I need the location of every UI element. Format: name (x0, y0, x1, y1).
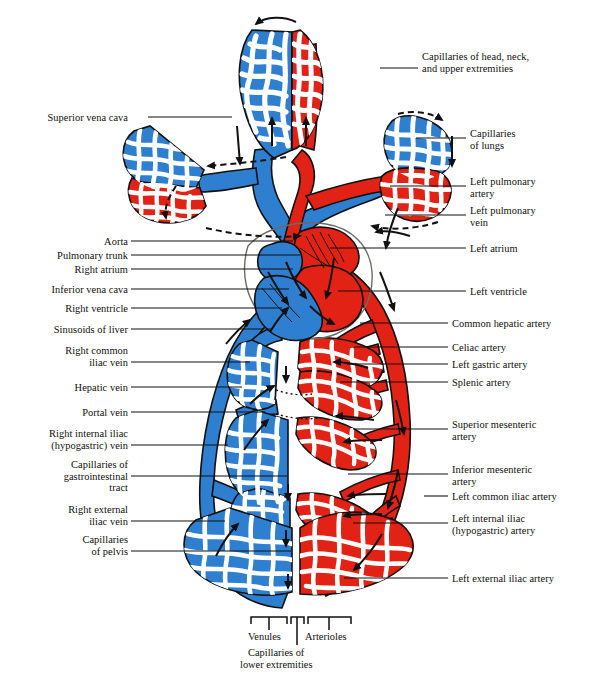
capillary-bed-left-lung (123, 126, 206, 224)
label-left-pulmonary-vein: Left pulmonaryvein (470, 205, 593, 228)
label-line: Hepatic vein (0, 382, 128, 394)
label-line: Celiac artery (452, 342, 593, 354)
label-left-gastric-artery: Left gastric artery (452, 359, 593, 371)
label-line: Portal vein (0, 407, 128, 419)
left-upper-venous-return (198, 168, 258, 192)
label-line: (hypogastric) vein (0, 440, 128, 452)
label-line: Capillaries of (0, 459, 128, 471)
label-line: Left common iliac artery (452, 491, 593, 503)
label-line: Left internal iliac (452, 513, 593, 525)
label-line: iliac vein (0, 357, 128, 369)
bracket-label-capillaries-of-lower-extremities: Capillaries oflower extremities (240, 647, 312, 671)
label-line: Aorta (0, 236, 128, 248)
label-line: Right ventricle (0, 303, 128, 315)
label-capillaries-of-lungs: Capillariesof lungs (470, 128, 593, 151)
label-sinusoids-of-liver: Sinusoids of liver (0, 324, 130, 336)
label-line: Inferior vena cava (0, 284, 128, 296)
label-line: Right external (0, 504, 128, 516)
label-line: artery (470, 188, 593, 200)
label-right-ventricle: Right ventricle (0, 303, 130, 315)
label-hepatic-vein: Hepatic vein (0, 382, 130, 394)
label-line: Right atrium (0, 264, 128, 276)
label-left-external-iliac-artery: Left external iliac artery (452, 573, 593, 585)
label-right-internal-iliac-hypogastric-vein: Right internal iliac(hypogastric) vein (0, 428, 130, 451)
label-aorta: Aorta (0, 236, 130, 248)
label-line: Capillaries of head, neck, (422, 51, 593, 63)
label-line: vein (470, 217, 593, 229)
bracket-arterioles (308, 617, 351, 630)
label-line: Superior mesenteric (452, 419, 593, 431)
label-line: Venules (248, 631, 281, 643)
label-line: Capillaries (470, 128, 593, 140)
label-line: Common hepatic artery (452, 318, 593, 330)
label-splenic-artery: Splenic artery (452, 377, 593, 389)
label-line: Left ventricle (470, 286, 593, 298)
label-right-common-iliac-vein: Right commoniliac vein (0, 345, 130, 368)
capillary-bed-gastrointestinal-arterial (298, 338, 386, 422)
label-capillaries-of-gastrointestinal-tract: Capillaries ofgastrointestinaltract (0, 459, 130, 494)
label-line: gastrointestinal (0, 471, 128, 483)
label-line: artery (452, 476, 593, 488)
label-capillaries-of-head-neck-and-upper-extremities: Capillaries of head, neck,and upper extr… (422, 51, 593, 74)
label-line: Sinusoids of liver (0, 324, 128, 336)
label-left-common-iliac-artery: Left common iliac artery (452, 491, 593, 503)
label-pulmonary-trunk: Pulmonary trunk (0, 250, 130, 262)
label-common-hepatic-artery: Common hepatic artery (452, 318, 593, 330)
label-line: and upper extremities (422, 63, 593, 75)
capillary-bed-right-lung (380, 116, 456, 222)
label-line: artery (452, 431, 593, 443)
circulatory-system-figure: Superior vena cavaAortaPulmonary trunkRi… (0, 0, 595, 694)
label-line: Capillaries of (240, 647, 312, 659)
label-line: Left external iliac artery (452, 573, 593, 585)
label-left-internal-iliac-hypogastric-artery: Left internal iliac(hypogastric) artery (452, 513, 593, 536)
bracket-label-venules: Venules (248, 631, 281, 643)
label-line: of pelvis (0, 546, 128, 558)
label-line: Pulmonary trunk (0, 250, 128, 262)
label-line: iliac vein (0, 516, 128, 528)
label-inferior-vena-cava: Inferior vena cava (0, 284, 130, 296)
label-left-atrium: Left atrium (470, 243, 593, 255)
label-portal-vein: Portal vein (0, 407, 130, 419)
label-left-pulmonary-artery: Left pulmonaryartery (470, 176, 593, 199)
capillary-bed-lower-extremities (184, 508, 413, 600)
label-line: Left pulmonary (470, 176, 593, 188)
label-line: of lungs (470, 140, 593, 152)
label-line: Superior vena cava (0, 112, 128, 124)
bracket-venules (251, 617, 287, 630)
label-line: (hypogastric) artery (452, 525, 593, 537)
label-line: Left gastric artery (452, 359, 593, 371)
label-inferior-mesenteric-artery: Inferior mesentericartery (452, 464, 593, 487)
label-superior-mesenteric-artery: Superior mesentericartery (452, 419, 593, 442)
label-celiac-artery: Celiac artery (452, 342, 593, 354)
label-line: Right internal iliac (0, 428, 128, 440)
bracket-label-arterioles: Arterioles (305, 631, 347, 643)
label-superior-vena-cava: Superior vena cava (0, 112, 130, 124)
bracket-capillaries-of-lower-extremities (291, 617, 304, 645)
label-line: tract (0, 482, 128, 494)
label-line: Arterioles (305, 631, 347, 643)
label-right-external-iliac-vein: Right externaliliac vein (0, 504, 130, 527)
label-line: Inferior mesenteric (452, 464, 593, 476)
capillary-bed-sinusoids-of-liver (227, 340, 278, 410)
label-right-atrium: Right atrium (0, 264, 130, 276)
label-left-ventricle: Left ventricle (470, 286, 593, 298)
label-line: Left atrium (470, 243, 593, 255)
label-line: Left pulmonary (470, 205, 593, 217)
label-line: Splenic artery (452, 377, 593, 389)
label-line: Right common (0, 345, 128, 357)
label-capillaries-of-pelvis: Capillariesof pelvis (0, 534, 130, 557)
label-line: lower extremities (240, 659, 312, 671)
label-line: Capillaries (0, 534, 128, 546)
